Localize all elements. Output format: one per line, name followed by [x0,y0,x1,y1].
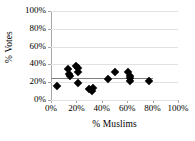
x-tick-mark [178,100,179,103]
gridline [51,64,178,65]
y-tick-label: 20% [0,76,46,86]
y-tick-label: 40% [0,58,46,68]
scatter-chart: % Votes % Muslims 0%20%40%60%80%100% 0%2… [0,0,195,141]
x-tick-label: 100% [158,103,195,113]
gridline [51,11,178,12]
y-tick-label: 60% [0,41,46,51]
plot-area [51,11,178,100]
y-tick-label: 80% [0,23,46,33]
data-point [110,67,118,75]
gridline [51,29,178,30]
data-point [73,68,81,76]
gridline [51,100,178,101]
gridline [51,82,178,83]
x-axis-title: % Muslims [51,119,178,129]
y-tick-label: 100% [0,5,46,15]
gridline [51,47,178,48]
data-point [73,79,81,87]
trend-line [51,78,153,79]
